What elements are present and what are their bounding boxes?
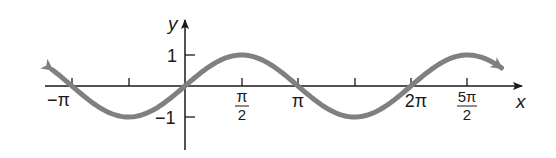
x-ticks	[72, 78, 467, 86]
x-tick-label-pi-over-2-num: π	[236, 88, 247, 105]
x-tick-label-5pi-over-2-den: 2	[463, 106, 471, 123]
y-tick-label-1: 1	[167, 46, 177, 66]
sine-graph: y x 1 −1 −π π 2 π 2π 5π 2	[0, 0, 556, 158]
y-tick-label-neg-1: −1	[155, 108, 176, 128]
y-axis-label: y	[166, 13, 179, 34]
x-tick-label-neg-pi: −π	[47, 90, 70, 110]
x-axis-label: x	[515, 91, 527, 112]
x-tick-label-pi-over-2-den: 2	[238, 106, 246, 123]
x-tick-label-pi: π	[292, 91, 304, 111]
x-tick-label-5pi-over-2-num: 5π	[458, 88, 477, 105]
x-tick-label-2pi: 2π	[405, 91, 427, 111]
